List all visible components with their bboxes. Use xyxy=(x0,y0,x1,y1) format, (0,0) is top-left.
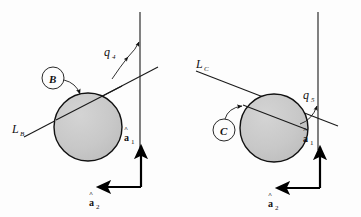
figure-canvas: q 4 B L B ^ a 1 ^ a 2 L C q 5 C ^ a 1 ^ … xyxy=(0,0,361,217)
right-body-label: C xyxy=(220,125,228,137)
left-axis-a2-label: a xyxy=(89,197,94,208)
left-body-label: B xyxy=(48,73,56,85)
left-line-label-subscript: B xyxy=(20,130,25,138)
sphere-body-c xyxy=(240,94,308,162)
left-callout-arrow xyxy=(64,80,80,94)
left-line-label: L xyxy=(11,122,19,136)
right-axis-a2-label: a xyxy=(268,198,273,209)
right-axis-a1-label: a xyxy=(303,133,308,144)
left-axis-a1-label: a xyxy=(124,132,129,143)
left-angle-label-subscript: 4 xyxy=(112,53,116,61)
right-angle-label-subscript: 5 xyxy=(311,96,315,104)
left-angle-arc-upper xyxy=(128,42,139,57)
right-axis-a2-subscript: 2 xyxy=(275,204,279,212)
right-callout-arrow xyxy=(225,106,242,119)
left-angle-label: q xyxy=(104,45,110,59)
left-axis-a1-subscript: 1 xyxy=(131,138,135,146)
right-line-label-subscript: C xyxy=(204,65,209,73)
right-line-label: L xyxy=(195,57,203,71)
left-axis-a2-subscript: 2 xyxy=(96,203,100,211)
right-axis-a1-subscript: 1 xyxy=(310,139,314,147)
right-angle-label: q xyxy=(303,88,309,102)
